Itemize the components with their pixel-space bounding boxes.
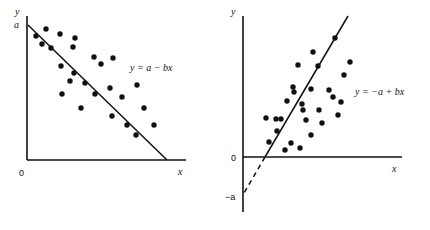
data-point [82, 80, 87, 85]
data-point [310, 49, 315, 54]
data-point [134, 82, 139, 87]
data-point [308, 132, 313, 137]
data-point [290, 84, 295, 89]
data-point [59, 91, 64, 96]
data-point [48, 45, 53, 50]
data-point [335, 112, 340, 117]
data-point [297, 145, 302, 150]
data-point [273, 116, 278, 121]
data-point [278, 116, 283, 121]
data-point [299, 101, 304, 106]
left-equation-annotation: y = a − bx [129, 62, 173, 73]
data-point [332, 35, 337, 40]
left-scatter-points [33, 26, 156, 137]
data-point [67, 78, 72, 83]
data-point [141, 105, 146, 110]
data-point [151, 122, 156, 127]
data-point [300, 107, 305, 112]
data-point [274, 128, 279, 133]
data-point [303, 117, 308, 122]
data-point [57, 31, 62, 36]
data-point [284, 98, 289, 103]
data-point [341, 72, 346, 77]
data-point [72, 35, 77, 40]
data-point [119, 94, 124, 99]
data-point [338, 99, 343, 104]
left-x-axis-label: x [177, 166, 183, 177]
data-point [315, 63, 320, 68]
data-point [110, 55, 115, 60]
data-point [288, 140, 293, 145]
left-regression-line [28, 25, 167, 160]
data-point [58, 63, 63, 68]
data-point [316, 107, 321, 112]
data-point [98, 61, 103, 66]
data-point [91, 54, 96, 59]
left-y-intercept-label: a [14, 19, 19, 30]
data-point [78, 105, 83, 110]
data-point [266, 139, 271, 144]
data-point [70, 44, 75, 49]
data-point [291, 89, 296, 94]
data-point [263, 115, 268, 120]
data-point [109, 113, 114, 118]
right-regression-line-extension [244, 157, 265, 193]
right-scatter-points [263, 35, 352, 152]
right-y-axis-label: y [230, 6, 236, 17]
right-y-intercept-label: −a [225, 192, 235, 202]
right-panel: y 0 −a x y = −a + bx [225, 6, 405, 212]
left-panel: y a 0 x y = a − bx [14, 6, 186, 178]
data-point [330, 94, 335, 99]
data-point [33, 33, 38, 38]
data-point [347, 59, 352, 64]
right-equation-annotation: y = −a + bx [354, 86, 405, 97]
data-point [43, 26, 48, 31]
data-point [326, 87, 331, 92]
left-origin-label: 0 [19, 168, 24, 178]
data-point [124, 122, 129, 127]
data-point [308, 86, 313, 91]
left-y-axis-label: y [14, 6, 20, 17]
data-point [133, 132, 138, 137]
data-point [39, 41, 44, 46]
right-origin-label: 0 [231, 153, 236, 163]
data-point [295, 62, 300, 67]
right-x-axis-label: x [391, 163, 397, 174]
data-point [282, 147, 287, 152]
data-point [71, 70, 76, 75]
data-point [92, 91, 97, 96]
data-point [107, 85, 112, 90]
two-panel-scatter-figure: y a 0 x y = a − bx [0, 0, 430, 230]
data-point [319, 120, 324, 125]
